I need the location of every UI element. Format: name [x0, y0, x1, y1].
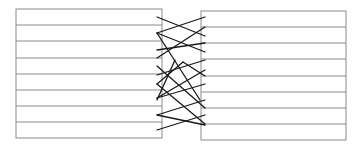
left-lined-box — [16, 9, 162, 138]
crossing-lines-diagram — [0, 0, 361, 147]
crossing-line — [157, 100, 205, 115]
crossing-line — [157, 62, 183, 84]
crossing-line — [157, 27, 205, 58]
crossing-line — [157, 115, 205, 125]
crossing-line — [157, 60, 205, 75]
crossing-connector-lines — [157, 17, 205, 130]
crossing-line — [157, 115, 205, 130]
right-lined-box — [201, 11, 346, 140]
crossing-line — [157, 84, 205, 124]
